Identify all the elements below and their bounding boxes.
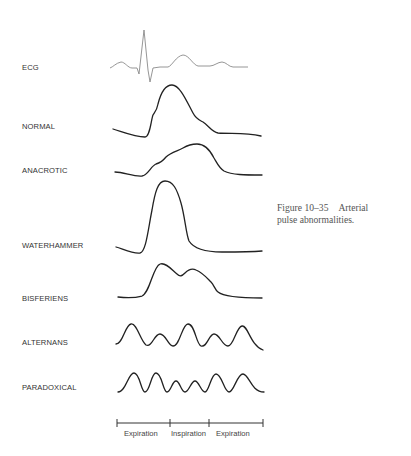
- timeline-label-inspiration: Inspiration: [171, 430, 206, 438]
- paradoxical-pulse-trace: [118, 373, 264, 392]
- anacrotic-pulse-trace: [115, 144, 262, 176]
- normal-pulse-trace: [113, 85, 261, 137]
- figure-caption: Figure 10–35Arterial pulse abnormalities…: [277, 202, 407, 225]
- bisferiens-pulse-trace: [118, 264, 262, 298]
- timeline-label-expiration-1: Expiration: [124, 430, 158, 438]
- ecg-trace: [110, 30, 248, 82]
- caption-line2: pulse abnormalities.: [277, 214, 354, 225]
- waterhammer-pulse-trace: [116, 181, 262, 253]
- respiration-timeline: [117, 419, 263, 427]
- figure-number: Figure 10–35: [277, 202, 328, 213]
- caption-line1: Arterial: [338, 202, 368, 213]
- timeline-label-expiration-2: Expiration: [216, 430, 250, 438]
- waveform-diagram: [0, 0, 411, 456]
- alternans-pulse-trace: [116, 324, 263, 350]
